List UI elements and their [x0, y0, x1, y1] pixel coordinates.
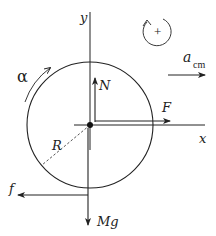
radius-label: R	[51, 138, 62, 153]
acceleration-cm-indicator: a cm	[168, 49, 205, 75]
radius-indicator: R	[42, 125, 90, 165]
x-axis: x	[74, 125, 207, 146]
x-axis-label: x	[199, 131, 207, 146]
weight-label: Mg	[96, 214, 119, 229]
weight-arrow: Mg	[88, 128, 119, 229]
free-body-diagram: y x R N F Mg f α +	[0, 0, 216, 236]
normal-force-arrow: N	[95, 78, 111, 122]
friction-label: f	[8, 181, 16, 196]
center-of-mass-dot	[87, 122, 93, 128]
applied-force-arrow: F	[95, 100, 172, 121]
alpha-label: α	[17, 67, 28, 86]
plus-sign-label: +	[154, 24, 161, 39]
rotation-sign-convention: +	[143, 19, 171, 46]
acceleration-label: a	[183, 49, 191, 65]
normal-force-label: N	[98, 78, 111, 93]
y-axis-label: y	[79, 10, 88, 25]
friction-arrow: f	[8, 181, 88, 196]
acceleration-subscript: cm	[193, 59, 205, 70]
applied-force-label: F	[161, 100, 172, 115]
